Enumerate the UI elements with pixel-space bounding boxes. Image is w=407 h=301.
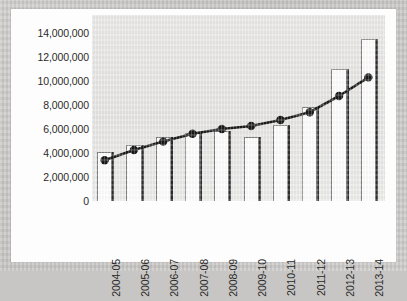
x-axis-tick-label: 2009-10 (256, 259, 268, 301)
y-axis-tick-label: 0 (15, 196, 89, 207)
y-axis-tick-label: 2,000,000 (15, 172, 89, 183)
x-axis-tick-label: 2010-11 (285, 259, 297, 301)
data-point-marker (218, 125, 226, 133)
data-point-marker (188, 130, 196, 138)
data-point-marker (306, 108, 314, 116)
data-point-marker (159, 137, 167, 145)
line-path (105, 77, 369, 160)
x-axis-tick-label: 2013-14 (373, 259, 385, 301)
x-axis-tick-label: 2011-12 (315, 259, 327, 301)
y-axis-tick-label: 14,000,000 (15, 28, 89, 39)
data-point-marker (364, 73, 372, 81)
chart-card: 14,000,00012,000,00010,000,0008,000,0006… (11, 9, 396, 262)
data-point-marker (247, 122, 255, 130)
data-point-marker (100, 156, 108, 164)
y-axis-tick-label: 4,000,000 (15, 148, 89, 159)
y-axis-tick-label: 10,000,000 (15, 76, 89, 87)
x-axis-tick-label: 2008-09 (227, 259, 239, 301)
y-axis-tick-label: 8,000,000 (15, 100, 89, 111)
y-axis-tick-label: 12,000,000 (15, 52, 89, 63)
line-markers (100, 73, 372, 164)
x-axis-tick-label: 2005-06 (139, 259, 151, 301)
y-axis: 14,000,00012,000,00010,000,0008,000,0006… (15, 15, 89, 201)
x-axis-tick-label: 2004-05 (110, 259, 122, 301)
plot-area (92, 15, 385, 201)
data-point-marker (276, 116, 284, 124)
y-axis-tick-label: 6,000,000 (15, 124, 89, 135)
data-point-marker (335, 92, 343, 100)
x-axis-tick-label: 2012-13 (344, 259, 356, 301)
data-point-marker (130, 146, 138, 154)
x-axis: 2004-052005-062006-072007-082008-092009-… (92, 203, 385, 261)
x-axis-tick-label: 2006-07 (168, 259, 180, 301)
x-axis-tick-label: 2007-08 (198, 259, 210, 301)
line-series (92, 15, 385, 201)
